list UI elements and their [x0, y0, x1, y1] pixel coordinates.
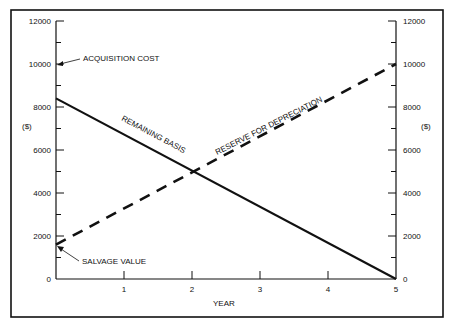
- left-y-tick-label: 6000: [33, 146, 51, 155]
- left-y-tick-label: 10000: [29, 60, 52, 69]
- x-tick-label: 4: [326, 285, 331, 294]
- right-y-tick-label: 10000: [403, 60, 426, 69]
- left-y-tick-label: 12000: [29, 17, 52, 26]
- right-y-tick-label: 6000: [403, 146, 421, 155]
- right-y-tick-label: 12000: [403, 17, 426, 26]
- depreciation-chart: 0020002000400040006000600080008000100001…: [0, 0, 450, 326]
- left-y-tick-label: 4000: [33, 189, 51, 198]
- left-y-axis-label: ($): [22, 122, 32, 131]
- chart-series: [56, 64, 396, 279]
- reserve-for-depreciation-label: RESERVE FOR DEPRECIATION: [214, 95, 324, 157]
- salvage-value-annotation: SALVAGE VALUE: [82, 257, 146, 266]
- remaining-basis-line: [56, 98, 396, 279]
- salvage-value-arrow: [61, 249, 79, 261]
- left-y-tick-label: 0: [47, 275, 52, 284]
- right-y-tick-label: 4000: [403, 189, 421, 198]
- right-y-tick-label: 0: [403, 275, 408, 284]
- reserve-for-depreciation-line: [56, 64, 396, 245]
- right-y-tick-label: 2000: [403, 232, 421, 241]
- remaining-basis-label: REMAINING BASIS: [120, 114, 187, 155]
- x-tick-label: 5: [394, 285, 399, 294]
- right-y-axis-label: ($): [421, 122, 431, 131]
- salvage-value-arrowhead-icon: [57, 246, 64, 252]
- left-y-tick-label: 8000: [33, 103, 51, 112]
- x-tick-label: 1: [122, 285, 127, 294]
- x-tick-label: 2: [190, 285, 195, 294]
- chart-frame: [11, 10, 443, 317]
- x-axis-label: YEAR: [213, 299, 235, 308]
- acquisition-cost-annotation: ACQUISITION COST: [83, 54, 160, 63]
- x-tick-label: 3: [258, 285, 263, 294]
- right-y-tick-label: 8000: [403, 103, 421, 112]
- left-y-tick-label: 2000: [33, 232, 51, 241]
